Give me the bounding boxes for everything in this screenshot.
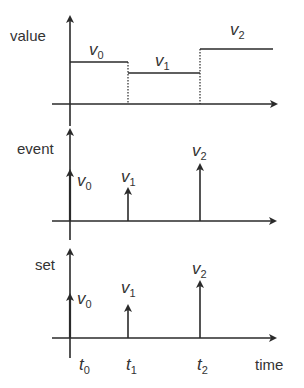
event-label-v2: v2: [192, 141, 207, 162]
value-label-v2: v2: [230, 20, 245, 41]
tick-t0: t0: [79, 355, 90, 376]
timing-diagram: value v0 v1 v2 event v0 v1 v2 set v0 v1 …: [0, 0, 304, 388]
value-panel: value v0 v1 v2: [10, 19, 274, 126]
time-axis-label: time: [255, 356, 283, 373]
event-label-v1: v1: [121, 167, 136, 188]
value-label-v1: v1: [155, 51, 170, 72]
tick-t2: t2: [197, 355, 208, 376]
tick-t1: t1: [126, 355, 137, 376]
event-label-v0: v0: [77, 171, 92, 192]
value-label-v0: v0: [89, 40, 104, 61]
set-axis-label: set: [35, 256, 56, 273]
set-panel: set v0 v1 v2: [35, 252, 273, 358]
event-panel: event v0 v1 v2: [17, 132, 273, 240]
event-axis-label: event: [17, 140, 55, 157]
value-axis-label: value: [10, 27, 46, 44]
time-axis-labels: t0 t1 t2 time: [79, 355, 283, 376]
set-label-v1: v1: [121, 278, 136, 299]
set-label-v0: v0: [77, 289, 92, 310]
set-label-v2: v2: [192, 259, 207, 280]
